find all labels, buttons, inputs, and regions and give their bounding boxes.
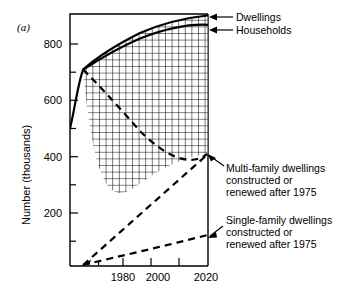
y-tick-labels: 800 600 400 200 xyxy=(44,38,62,219)
annotation-households-label: Households xyxy=(236,24,291,36)
annotation-single-family-line3: renewed after 1975 xyxy=(226,238,317,250)
x-tick-labels: 1980 2000 2020 xyxy=(111,271,218,283)
y-axis-title: Number (thousands) xyxy=(20,125,32,225)
y-tick-label-800: 800 xyxy=(44,38,62,50)
annotation-dwellings: Dwellings xyxy=(209,11,281,23)
origin-arrowhead xyxy=(81,260,91,267)
annotation-single-family: Single-family dwellings constructed or r… xyxy=(208,214,333,250)
annotation-dwellings-label: Dwellings xyxy=(236,11,281,23)
housing-stock-chart: (a) Number (thousands) 800 600 400 200 1… xyxy=(0,0,347,294)
x-tick-label-2000: 2000 xyxy=(146,271,170,283)
y-tick-label-600: 600 xyxy=(44,94,62,106)
x-tick-label-2020: 2020 xyxy=(194,271,218,283)
y-tick-label-200: 200 xyxy=(44,207,62,219)
crosshatch-region xyxy=(83,16,207,194)
annotation-single-family-line1: Single-family dwellings xyxy=(226,214,332,226)
annotation-multi-family-line1: Multi-family dwellings xyxy=(226,162,325,174)
annotation-households: Households xyxy=(209,24,291,36)
x-tick-label-1980: 1980 xyxy=(111,271,135,283)
annotation-multi-family: Multi-family dwellings constructed or re… xyxy=(208,154,326,198)
series-single-family xyxy=(83,235,207,265)
annotation-multi-family-line2: constructed or xyxy=(226,174,293,186)
y-tick-label-400: 400 xyxy=(44,151,62,163)
annotation-single-family-line2: constructed or xyxy=(226,226,293,238)
annotation-multi-family-line3: renewed after 1975 xyxy=(226,186,317,198)
y-ticks xyxy=(70,44,78,241)
panel-label: (a) xyxy=(17,21,30,34)
